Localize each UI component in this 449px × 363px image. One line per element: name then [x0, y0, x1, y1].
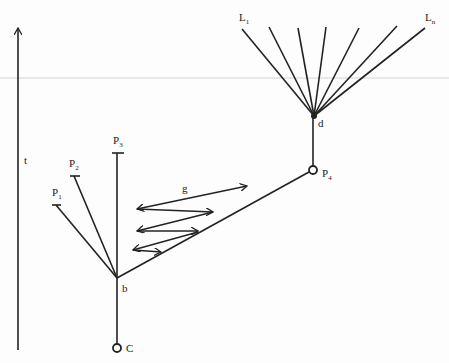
label-ln: Ln — [425, 12, 435, 28]
label-g: g — [182, 183, 188, 194]
node-c — [113, 344, 121, 352]
label-l1: L1 — [239, 12, 249, 28]
label-p3: P3 — [113, 135, 123, 151]
label-c: C — [126, 343, 133, 354]
label-p4: P4 — [322, 168, 332, 184]
phylogeny-diagram: t P1 P2 P3 P4 L1 Ln b C d g — [0, 0, 449, 363]
label-b: b — [122, 283, 128, 294]
diagram-lines — [0, 0, 449, 363]
label-d: d — [318, 118, 324, 129]
node-p4 — [309, 166, 317, 174]
axis-label-t: t — [24, 155, 27, 166]
label-p1: P1 — [52, 187, 62, 203]
label-p2: P2 — [69, 158, 79, 174]
